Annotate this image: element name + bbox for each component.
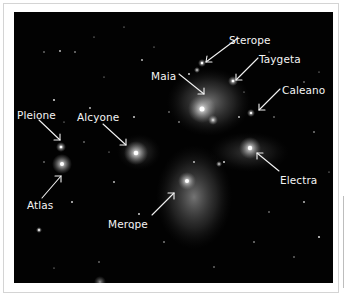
label-taygeta: Taygeta <box>259 54 301 65</box>
label-sterope: Sterope <box>229 35 271 46</box>
label-merope: Merope <box>108 219 148 230</box>
label-electra: Electra <box>280 175 317 186</box>
label-maia: Maia <box>151 71 176 82</box>
label-pleione: Pleione <box>17 110 56 121</box>
pleiades-photo: Sterope Taygeta Maia Caleano Pleione Alc… <box>14 12 333 283</box>
label-atlas: Atlas <box>27 200 53 211</box>
label-alcyone: Alcyone <box>77 112 119 123</box>
label-caleano: Caleano <box>282 85 325 96</box>
divider-line <box>343 196 344 288</box>
